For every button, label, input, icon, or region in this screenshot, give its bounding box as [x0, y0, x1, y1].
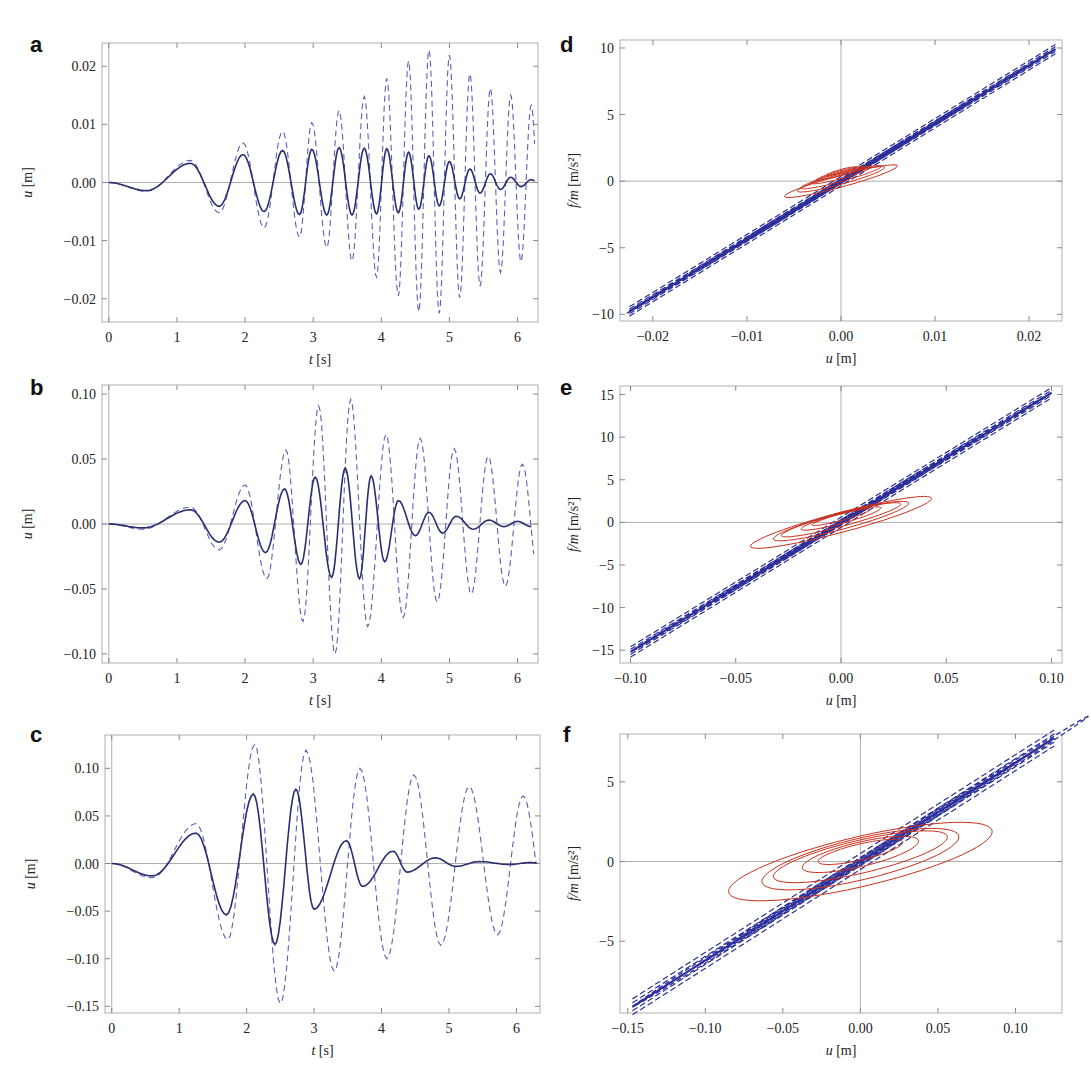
y-tick-label: 0.00 — [72, 517, 97, 532]
y-tick-label: 0.10 — [75, 761, 100, 776]
y-tick-label: −0.10 — [67, 952, 99, 967]
x-tick-label: 0 — [105, 671, 112, 686]
x-tick-label: 6 — [514, 330, 521, 345]
y-tick-label: 0.10 — [72, 387, 97, 402]
blue-hysteresis-band — [629, 54, 1055, 316]
dashed-response-curve — [109, 50, 535, 313]
x-tick-label: 4 — [378, 671, 385, 686]
y-tick-label: −0.05 — [67, 904, 99, 919]
plot-e-hysteresis: −0.10−0.050.000.050.10−15−10−5051015u [m… — [566, 386, 1064, 708]
y-tick-label: −0.15 — [67, 999, 99, 1014]
x-tick-label: 0.05 — [934, 671, 959, 686]
y-tick-label: 15 — [600, 388, 614, 403]
x-tick-label: 0.05 — [926, 1021, 951, 1036]
x-tick-label: 3 — [311, 1021, 318, 1036]
y-axis-label: f/m [m/s²] — [566, 153, 581, 208]
y-tick-label: 0 — [607, 855, 614, 870]
x-tick-label: −0.02 — [637, 329, 669, 344]
y-axis-label: f/m [m/s²] — [566, 497, 581, 552]
y-tick-label: 5 — [607, 108, 614, 123]
y-tick-label: 5 — [607, 473, 614, 488]
y-tick-label: 0.05 — [75, 809, 100, 824]
x-tick-label: −0.10 — [614, 671, 646, 686]
y-tick-label: −15 — [592, 643, 614, 658]
y-tick-label: 10 — [600, 430, 614, 445]
y-tick-label: −5 — [599, 934, 614, 949]
x-tick-label: 0.01 — [923, 329, 948, 344]
y-tick-label: −0.05 — [64, 582, 96, 597]
plot-c-time-history: 0123456−0.15−0.10−0.050.000.050.10t [s]u… — [23, 735, 540, 1058]
x-tick-label: −0.05 — [720, 671, 752, 686]
x-tick-label: 2 — [242, 671, 249, 686]
x-tick-label: 0.00 — [829, 671, 854, 686]
plot-frame — [105, 735, 540, 1013]
x-tick-label: 0.00 — [829, 329, 854, 344]
x-tick-label: 5 — [445, 1021, 452, 1036]
x-axis-label: t [s] — [309, 352, 331, 367]
solid-response-curve — [109, 148, 535, 216]
x-tick-label: 0.02 — [1017, 329, 1042, 344]
x-tick-label: 5 — [446, 330, 453, 345]
x-tick-label: 5 — [446, 671, 453, 686]
x-axis-label: u [m] — [826, 693, 857, 708]
x-tick-label: 0.10 — [1039, 671, 1064, 686]
x-tick-label: 4 — [378, 330, 385, 345]
plot-d-hysteresis: −0.02−0.010.000.010.02−10−50510u [m]f/m … — [566, 40, 1062, 366]
solid-response-curve — [112, 789, 537, 944]
x-tick-label: 6 — [514, 671, 521, 686]
y-axis-label: f/m [m/s²] — [566, 846, 581, 901]
x-axis-label: u [m] — [826, 1043, 857, 1058]
y-tick-label: 0.00 — [72, 176, 97, 191]
y-tick-label: 0 — [607, 515, 614, 530]
dashed-response-curve — [112, 745, 536, 1004]
blue-hysteresis-band — [632, 746, 1054, 1015]
y-tick-label: −10 — [592, 601, 614, 616]
y-tick-label: −0.02 — [64, 292, 96, 307]
x-tick-label: 1 — [176, 1021, 183, 1036]
x-tick-label: 0 — [108, 1021, 115, 1036]
x-tick-label: −0.10 — [689, 1021, 721, 1036]
x-tick-label: 1 — [173, 330, 180, 345]
y-tick-label: 0.05 — [72, 452, 97, 467]
x-tick-label: 3 — [310, 330, 317, 345]
blue-hysteresis-band — [632, 730, 1054, 999]
plot-a-time-history: 0123456−0.02−0.010.000.010.02t [s]u [m] — [20, 43, 538, 367]
x-axis-label: t [s] — [309, 693, 331, 708]
y-tick-label: 0.01 — [72, 117, 97, 132]
x-axis-label: t [s] — [311, 1043, 333, 1058]
y-axis-label: u [m] — [23, 859, 38, 890]
x-tick-label: 6 — [513, 1021, 520, 1036]
dashed-response-curve — [109, 399, 534, 654]
y-tick-label: −5 — [599, 241, 614, 256]
x-tick-label: 0.10 — [1003, 1021, 1028, 1036]
plot-b-time-history: 0123456−0.10−0.050.000.050.10t [s]u [m] — [20, 385, 538, 708]
x-tick-label: 1 — [173, 671, 180, 686]
y-axis-label: u [m] — [20, 167, 35, 198]
y-axis-label: u [m] — [20, 509, 35, 540]
x-tick-label: 2 — [242, 330, 249, 345]
y-tick-label: 10 — [600, 41, 614, 56]
x-tick-label: −0.01 — [731, 329, 763, 344]
solid-response-curve — [109, 468, 531, 578]
y-tick-label: 0.02 — [72, 59, 97, 74]
x-tick-label: 3 — [310, 671, 317, 686]
y-tick-label: −5 — [599, 558, 614, 573]
x-axis-label: u [m] — [826, 351, 857, 366]
y-tick-label: 5 — [607, 775, 614, 790]
y-tick-label: −0.10 — [64, 647, 96, 662]
x-tick-label: −0.05 — [767, 1021, 799, 1036]
y-tick-label: 0 — [607, 174, 614, 189]
y-tick-label: 0.00 — [75, 857, 100, 872]
figure-canvas: 0123456−0.02−0.010.000.010.02t [s]u [m] … — [0, 0, 1091, 1090]
x-tick-label: 2 — [243, 1021, 250, 1036]
y-tick-label: −10 — [592, 307, 614, 322]
x-tick-label: 0 — [105, 330, 112, 345]
x-tick-label: 0.00 — [848, 1021, 873, 1036]
y-tick-label: −0.01 — [64, 234, 96, 249]
x-tick-label: −0.15 — [612, 1021, 644, 1036]
plot-f-hysteresis: −0.15−0.10−0.050.000.050.10−505u [m]f/m … — [566, 716, 1088, 1058]
x-tick-label: 4 — [378, 1021, 385, 1036]
